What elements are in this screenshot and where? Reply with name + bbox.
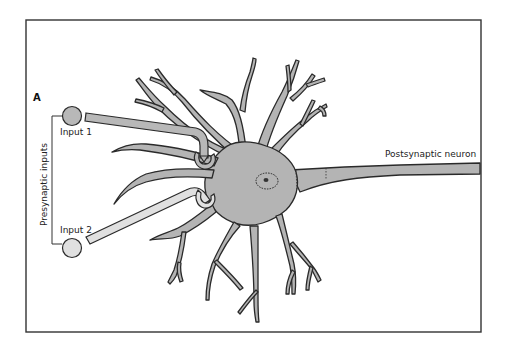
input-1-label: Input 1: [60, 127, 92, 137]
input-2-cell-body: [63, 239, 82, 258]
neuron-diagram: A Presynaptic inputs Input 1 Input 2 Pos…: [0, 0, 505, 350]
postsynaptic-neuron-label: Postsynaptic neuron: [385, 149, 476, 159]
presynaptic-inputs-label: Presynaptic inputs: [39, 143, 49, 226]
soma: [205, 142, 298, 225]
panel-letter: A: [33, 92, 41, 103]
input-1-cell-body: [63, 107, 82, 126]
input-2-label: Input 2: [60, 225, 92, 235]
nucleolus: [264, 178, 269, 182]
